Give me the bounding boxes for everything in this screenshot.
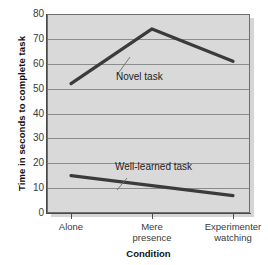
series-label-well-learned-task: Well-learned task — [115, 161, 192, 172]
y-axis-line — [46, 14, 47, 214]
x-tick-label-1: Merepresence — [115, 221, 189, 243]
gridline-60 — [48, 64, 249, 65]
chart-figure: 01020304050607080 AloneMerepresenceExper… — [0, 0, 268, 265]
plot-area — [47, 14, 250, 213]
series-label-novel-task: Novel task — [116, 71, 163, 82]
y-axis-title: Time in seconds to complete task — [16, 9, 27, 219]
x-axis-title: Condition — [47, 248, 250, 259]
gridline-30 — [48, 138, 249, 139]
x-axis-line — [46, 213, 251, 214]
gridline-80 — [48, 14, 249, 15]
x-tick-label-2: Experimenterwatching — [196, 221, 268, 243]
x-tick-mark-0 — [71, 214, 72, 219]
x-tick-label-0: Alone — [34, 221, 108, 232]
gridline-50 — [48, 89, 249, 90]
x-tick-mark-1 — [152, 214, 153, 219]
x-tick-mark-2 — [233, 214, 234, 219]
gridline-70 — [48, 39, 249, 40]
gridline-40 — [48, 114, 249, 115]
gridline-10 — [48, 188, 249, 189]
